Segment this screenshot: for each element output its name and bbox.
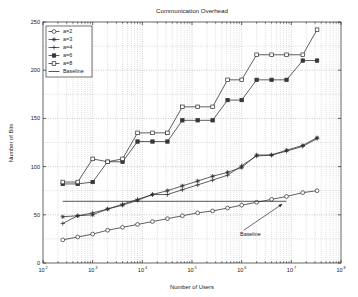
x-tick-label: 10 <box>287 267 293 273</box>
x-tick-label: 10 <box>337 267 343 273</box>
x-tick-label: 10 <box>138 267 144 273</box>
y-tick-label: 150 <box>31 115 40 121</box>
communication-overhead-chart: Baseline 102103104105106107108 050100150… <box>0 0 358 297</box>
series-a-8 <box>61 28 319 184</box>
chart-figure: Baseline 102103104105106107108 050100150… <box>0 0 358 297</box>
x-axis-tick-labels: 102103104105106107108 <box>39 265 346 273</box>
x-tick-label: 10 <box>188 267 194 273</box>
x-tick-label: 10 <box>88 267 94 273</box>
legend-item-label: a=2 <box>63 28 72 34</box>
y-tick-label: 100 <box>31 164 40 170</box>
legend-item-label: a=4 <box>63 44 72 50</box>
chart-title: Communication Overhead <box>156 7 228 14</box>
x-tick-exponent: 3 <box>95 265 97 270</box>
x-tick-exponent: 7 <box>294 265 296 270</box>
x-tick-exponent: 6 <box>244 265 246 270</box>
y-axis-label: Number of Bits <box>8 124 14 162</box>
chart-annotations: Baseline <box>240 204 282 237</box>
y-tick-label: 200 <box>31 67 40 73</box>
x-tick-exponent: 8 <box>344 265 346 270</box>
x-tick-exponent: 2 <box>46 265 48 270</box>
legend-item-label: Baseline <box>63 68 84 74</box>
baseline-annotation-label: Baseline <box>240 231 261 237</box>
y-axis-tick-labels: 050100150200250 <box>31 19 40 266</box>
y-tick-label: 250 <box>31 19 40 25</box>
y-tick-label: 50 <box>34 212 40 218</box>
chart-legend[interactable]: a=2a=3a=4a=6a=8Baseline <box>46 26 92 77</box>
x-tick-label: 10 <box>237 267 243 273</box>
x-tick-label: 10 <box>39 267 45 273</box>
x-axis-label: Number of Users <box>170 284 214 290</box>
x-tick-exponent: 4 <box>145 265 148 270</box>
legend-item-label: a=8 <box>63 60 72 66</box>
legend-item-label: a=3 <box>63 36 72 42</box>
y-tick-label: 0 <box>37 260 40 266</box>
legend-item-label: a=6 <box>63 52 72 58</box>
x-tick-exponent: 5 <box>195 265 197 270</box>
